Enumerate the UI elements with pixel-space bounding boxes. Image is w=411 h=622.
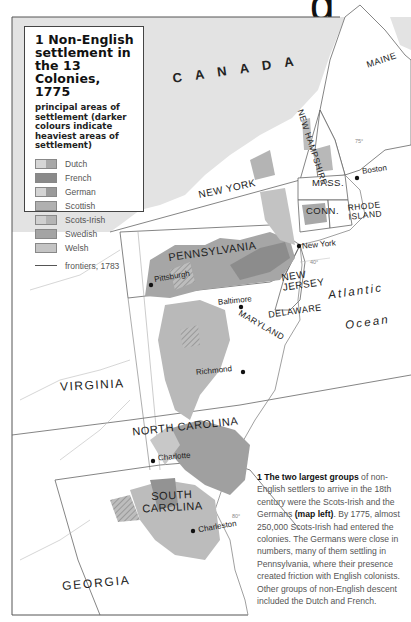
map-legend: 1 Non-English settlement in the 13 Colon… xyxy=(24,26,144,212)
legend-item-swedish: Swedish xyxy=(35,227,137,241)
legend-item-welsh: Welsh xyxy=(35,241,137,255)
swatch-dutch xyxy=(35,159,57,169)
swatch-scots-irish xyxy=(35,215,57,225)
map-caption: 1 The two largest groups of non-English … xyxy=(257,471,407,607)
legend-item-scottish: Scottish xyxy=(35,199,137,213)
swatch-swedish xyxy=(35,229,57,239)
label-mass: MASS. xyxy=(312,177,344,188)
label-rhode-island: RHODEISLAND xyxy=(347,200,382,221)
legend-title: 1 Non-English settlement in the 13 Colon… xyxy=(35,33,137,98)
lat-40-label: 40° xyxy=(310,259,318,265)
label-conn: CONN. xyxy=(306,205,339,216)
swatch-german xyxy=(35,187,57,197)
legend-item-german: German xyxy=(35,185,137,199)
legend-item-dutch: Dutch xyxy=(35,157,137,171)
legend-item-scots-irish: Scots-Irish xyxy=(35,213,137,227)
frontier-line-symbol xyxy=(35,265,57,266)
label-south-carolina: SOUTHCAROLINA xyxy=(141,487,202,514)
swatch-french xyxy=(35,173,57,183)
legend-subtitle: principal areas of settlement (darker co… xyxy=(35,103,137,151)
legend-item-french: French xyxy=(35,171,137,185)
swatch-scottish xyxy=(35,201,57,211)
legend-item-frontiers: frontiers, 1783 xyxy=(35,261,137,271)
caption-lead: 1 The two largest groups xyxy=(257,472,359,482)
legend-items: Dutch French German Scottish Scots-Irish… xyxy=(35,157,137,255)
lon-75-label: 75° xyxy=(355,138,363,144)
swatch-welsh xyxy=(35,243,57,253)
caption-map-ref: (map left) xyxy=(295,509,334,519)
